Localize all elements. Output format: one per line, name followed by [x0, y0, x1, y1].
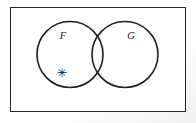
set-label-g: G — [127, 30, 135, 41]
element-marker-asterisk: ✳ — [57, 66, 67, 80]
set-circle-f — [37, 22, 103, 88]
venn-diagram-figure: F G ✳ — [0, 0, 196, 123]
set-label-f: F — [59, 30, 67, 41]
venn-circles-layer: F G ✳ — [0, 0, 196, 123]
set-circle-g — [92, 22, 158, 88]
